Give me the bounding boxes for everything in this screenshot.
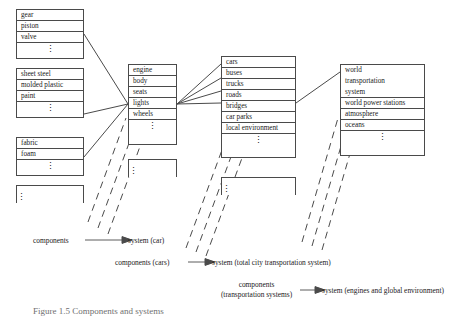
box-engine-parts[interactable]: gear piston valve ⋮: [16, 9, 84, 59]
cell-gear: gear: [17, 10, 83, 21]
cell-world-line-1: world: [345, 65, 420, 76]
cell-local-environment: local environment: [222, 123, 295, 134]
box-more-car-systems[interactable]: ⋮: [128, 159, 177, 177]
dashed-col1-a: [88, 118, 126, 222]
cell-engine-parts-continuation: ⋮: [17, 43, 83, 56]
connector-car-to-buses: [177, 78, 221, 104]
cell-paint: paint: [17, 91, 83, 102]
cell-foam: foam: [17, 149, 83, 160]
cell-car-parks: car parks: [222, 112, 295, 123]
box-more-transport-systems[interactable]: ⋮: [221, 177, 296, 195]
cell-world-line-2: transportation: [345, 76, 420, 87]
cell-molded-plastic: molded plastic: [17, 80, 83, 91]
cell-buses: buses: [222, 68, 295, 79]
cell-atmosphere: atmosphere: [341, 109, 424, 120]
cell-sheet-steel: sheet steel: [17, 69, 83, 80]
cell-seats: seats: [129, 87, 176, 98]
cell-more-transport-continuation: ⋮: [222, 184, 231, 194]
legend-2-left: components (cars): [115, 258, 169, 268]
cell-lights: lights: [129, 98, 176, 109]
cell-engine: engine: [129, 65, 176, 76]
connector-materials-to-seats: [84, 104, 128, 114]
cell-body: body: [129, 76, 176, 87]
connector-fabric-to-seats: [84, 104, 128, 157]
cell-seat-materials-continuation: ⋮: [17, 160, 83, 173]
box-global-elements[interactable]: world transportation system world power …: [340, 64, 425, 156]
legend-2-right: system (total city transportation system…: [212, 258, 331, 268]
cell-body-materials-continuation: ⋮: [17, 102, 83, 115]
dashed-col2-a: [186, 150, 222, 248]
cell-more-car-systems-continuation: ⋮: [129, 166, 138, 176]
cell-city-transport-continuation: ⋮: [222, 134, 295, 147]
connector-car-to-trucks: [177, 91, 221, 104]
cell-wheels: wheels: [129, 109, 176, 120]
cell-trucks: trucks: [222, 79, 295, 90]
legend-3-left: components (transportation systems): [215, 280, 298, 299]
cell-piston: piston: [17, 21, 83, 32]
box-body-materials[interactable]: sheet steel molded plastic paint ⋮: [16, 68, 84, 118]
figure-caption: Figure 1.5 Components and systems: [33, 306, 164, 316]
box-more-components[interactable]: ⋮: [16, 185, 84, 203]
cell-global-elements-continuation: ⋮: [341, 131, 424, 144]
connector-gearbox-to-engine: [84, 34, 128, 104]
legend-1-right: system (car): [128, 236, 164, 246]
legend-3-left-line1: components: [215, 280, 298, 290]
cell-oceans: oceans: [341, 120, 424, 131]
box-city-transport-elements[interactable]: cars buses trucks roads bridges car park…: [221, 56, 296, 158]
box-seat-materials[interactable]: fabric foam ⋮: [16, 137, 84, 176]
cell-world-transportation-system: world transportation system: [341, 65, 424, 98]
connector-car-to-cars: [177, 64, 221, 104]
cell-car-subsystems-continuation: ⋮: [129, 120, 176, 133]
cell-world-power-stations: world power stations: [341, 98, 424, 109]
cell-bridges: bridges: [222, 101, 295, 112]
box-car-subsystems[interactable]: engine body seats lights wheels ⋮: [128, 64, 177, 145]
connector-car-to-roads: [177, 103, 221, 104]
dashed-col3-a: [302, 118, 338, 242]
dashed-col1-c: [108, 130, 146, 234]
cell-more-components-continuation: ⋮: [17, 192, 26, 202]
cell-roads: roads: [222, 90, 295, 101]
legend-3-left-line2: (transportation systems): [215, 290, 298, 300]
connector-transport-to-world: [296, 72, 340, 103]
cell-cars: cars: [222, 57, 295, 68]
dashed-col2-c: [206, 158, 242, 256]
cell-fabric: fabric: [17, 138, 83, 149]
legend-1-left: components: [33, 236, 69, 246]
dashed-col2-b: [196, 154, 232, 252]
legend-3-right: system (engines and global environment): [322, 286, 444, 296]
cell-valve: valve: [17, 32, 83, 43]
cell-world-line-3: system: [345, 87, 420, 98]
